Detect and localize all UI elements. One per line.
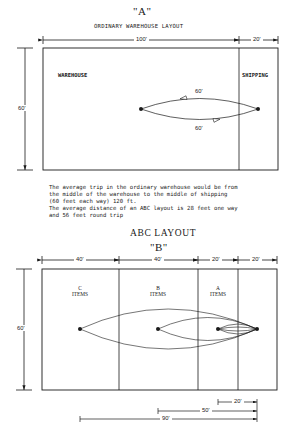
a-width-label: 20' <box>210 256 222 262</box>
layout-b-title: "B" <box>150 241 168 253</box>
b-items-label: B ITEMS <box>144 285 172 297</box>
zone-items-text: ITEMS <box>66 291 94 297</box>
layout-a-subtitle: ORDINARY WAREHOUSE LAYOUT <box>94 23 183 29</box>
layout-b-trip-arcs <box>80 309 257 349</box>
description-line: (60 feet each way) 120 ft. <box>49 198 238 205</box>
layout-a-floor <box>43 48 278 170</box>
warehouse-zone-label: WAREHOUSE <box>58 72 87 78</box>
layout-a-outbound-arc <box>141 109 258 120</box>
zone-items-text: ITEMS <box>204 291 232 297</box>
shipping-dot <box>255 327 259 331</box>
a-items-label: A ITEMS <box>204 285 232 297</box>
shipping-width-label: 20' <box>250 256 262 262</box>
layout-a-warehouse-width-label: 100' <box>134 36 149 42</box>
layout-a-shipping-width-label: 20' <box>251 36 263 42</box>
b-items-dot <box>156 327 160 331</box>
description-line: The average trip in the ordinary warehou… <box>49 184 238 191</box>
description-line: The average distance of an ABC layout is… <box>49 205 238 212</box>
outbound-trip-label: 60' <box>193 125 205 131</box>
b-to-shipping-distance: 50' <box>200 407 212 413</box>
shipping-zone-label: SHIPPING <box>242 72 268 78</box>
a-items-dot <box>216 327 220 331</box>
arrow-left-icon <box>180 96 187 100</box>
layout-b-height-label: 60' <box>15 325 27 331</box>
layout-b-heading: ABC LAYOUT <box>130 228 196 238</box>
arrow-right-icon <box>213 119 220 123</box>
c-to-shipping-distance: 90' <box>160 415 172 421</box>
description-block: The average trip in the ordinary warehou… <box>49 184 238 219</box>
layout-a-drawing <box>17 36 278 170</box>
shipping-midpoint-dot <box>256 107 260 111</box>
zone-items-text: ITEMS <box>144 291 172 297</box>
return-trip-label: 60' <box>193 88 205 94</box>
layout-a-width-dimension <box>43 36 278 44</box>
warehouse-midpoint-dot <box>139 107 143 111</box>
c-items-dot <box>78 327 82 331</box>
description-line: the middle of the warehouse to the middl… <box>49 191 238 198</box>
c-width-label: 40' <box>74 256 86 262</box>
description-line: and 56 feet round trip <box>49 212 238 219</box>
layout-a-height-label: 60' <box>16 105 28 111</box>
b-width-label: 40' <box>152 256 164 262</box>
a-to-shipping-distance: 20' <box>232 398 244 404</box>
c-items-label: C ITEMS <box>66 285 94 297</box>
layout-a-title: "A" <box>133 5 151 17</box>
layout-a-return-arc <box>141 99 258 110</box>
